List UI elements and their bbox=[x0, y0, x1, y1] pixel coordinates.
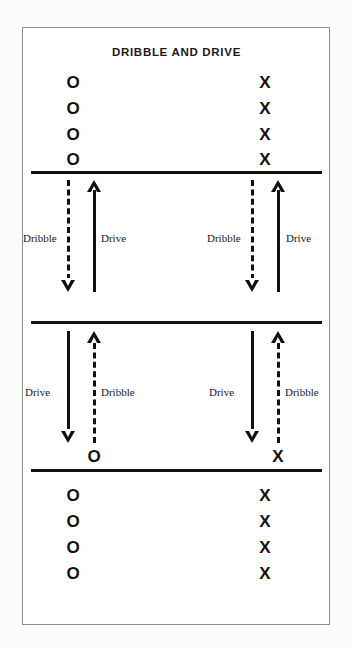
player-x-bottom-2: X bbox=[255, 513, 275, 530]
player-o-bottom-4: O bbox=[63, 565, 83, 582]
player-o-bottom-1: O bbox=[63, 487, 83, 504]
court-line-middle bbox=[31, 321, 322, 324]
player-x-bottom-4: X bbox=[255, 565, 275, 582]
upper-left-drive-label: Drive bbox=[101, 232, 126, 244]
player-o-top-2: O bbox=[63, 100, 83, 117]
player-o-bottom-3: O bbox=[63, 539, 83, 556]
upper-right-drive-label: Drive bbox=[286, 232, 311, 244]
player-x-top-3: X bbox=[255, 126, 275, 143]
player-x-bottom-3: X bbox=[255, 539, 275, 556]
upper-left-dribble-label: Dribble bbox=[23, 232, 57, 244]
drill-diagram-page: DRIBBLE AND DRIVE O O O O X X X X Dribbl… bbox=[0, 0, 353, 649]
lower-right-dribble-label: Dribble bbox=[285, 386, 319, 398]
player-x-top-1: X bbox=[255, 74, 275, 91]
player-o-top-4: O bbox=[63, 151, 83, 168]
upper-left-drive-arrow bbox=[87, 180, 101, 292]
court-line-top-baseline bbox=[31, 171, 322, 174]
upper-left-dribble-arrow bbox=[61, 180, 75, 292]
player-x-bottom-1: X bbox=[255, 487, 275, 504]
lower-left-drive-arrow bbox=[61, 331, 75, 443]
player-o-mid-marker: O bbox=[84, 448, 104, 465]
player-x-mid-marker: X bbox=[268, 448, 288, 465]
upper-right-dribble-arrow bbox=[245, 180, 259, 292]
lower-left-dribble-arrow bbox=[87, 331, 101, 443]
lower-right-drive-arrow bbox=[245, 331, 259, 443]
player-o-top-3: O bbox=[63, 126, 83, 143]
player-o-bottom-2: O bbox=[63, 513, 83, 530]
court-line-bottom-baseline bbox=[31, 469, 322, 472]
player-x-top-4: X bbox=[255, 151, 275, 168]
lower-left-drive-label: Drive bbox=[25, 386, 50, 398]
lower-right-dribble-arrow bbox=[271, 331, 285, 443]
lower-right-drive-label: Drive bbox=[209, 386, 234, 398]
player-o-top-1: O bbox=[63, 74, 83, 91]
lower-left-dribble-label: Dribble bbox=[101, 386, 135, 398]
upper-right-drive-arrow bbox=[271, 180, 285, 292]
player-x-top-2: X bbox=[255, 100, 275, 117]
page-title: DRIBBLE AND DRIVE bbox=[0, 46, 353, 58]
upper-right-dribble-label: Dribble bbox=[207, 232, 241, 244]
